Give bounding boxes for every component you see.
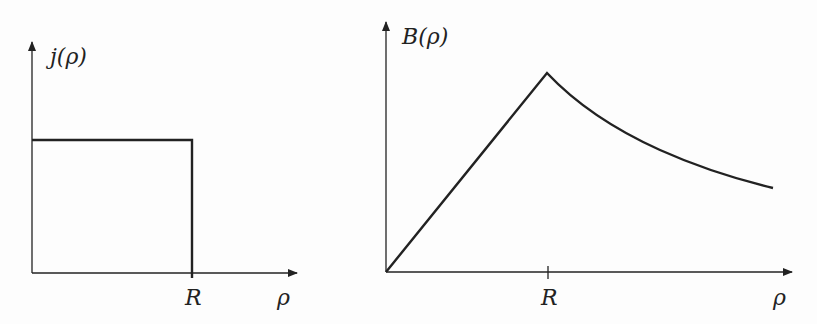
b-field-curve — [386, 73, 773, 272]
magnetic-field-chart: B(ρ) R ρ — [386, 22, 792, 310]
right-y-label: B(ρ) — [401, 24, 448, 49]
current-density-chart: j(ρ) R ρ — [32, 42, 297, 310]
right-tick-R: R — [540, 285, 558, 310]
j-step-curve — [32, 140, 192, 278]
right-x-label: ρ — [772, 285, 786, 310]
left-y-label: j(ρ) — [45, 44, 87, 69]
figure: j(ρ) R ρ B(ρ) R ρ — [0, 0, 817, 324]
left-tick-R: R — [184, 285, 202, 310]
left-x-label: ρ — [276, 285, 290, 310]
